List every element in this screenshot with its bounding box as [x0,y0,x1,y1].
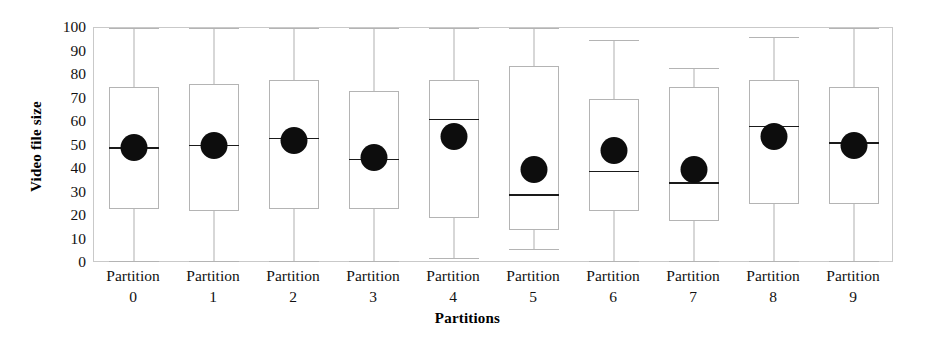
lower-whisker-line [214,211,215,260]
interquartile-box [669,87,719,221]
mean-marker-dot [201,132,228,159]
lower-whisker-cap [749,261,799,262]
lower-whisker-cap [429,258,479,259]
upper-whisker-cap [189,28,239,29]
lower-whisker-line [374,209,375,261]
median-line [509,194,559,196]
lower-whisker-line [774,204,775,260]
upper-whisker-line [134,28,135,87]
y-axis-tick-label: 90 [44,43,86,59]
x-axis-tick-label-line2: 6 [573,287,653,308]
x-axis-tick-label: Partition3 [333,266,413,308]
mean-marker-dot [841,132,868,159]
interquartile-box [509,66,559,231]
upper-whisker-cap [269,28,319,29]
mean-marker-dot [121,134,148,161]
mean-marker-dot [601,137,628,164]
x-axis-tick-label: Partition1 [173,266,253,308]
y-axis-tick-label: 30 [44,184,86,200]
upper-whisker-cap [589,40,639,41]
mean-marker-dot [761,123,788,150]
x-axis-tick-label-line1: Partition [493,266,573,287]
box-plot-group [494,28,574,261]
upper-whisker-line [694,68,695,87]
y-axis-tick-label: 100 [44,19,86,35]
y-axis-tick-label: 40 [44,160,86,176]
lower-whisker-line [614,211,615,260]
upper-whisker-line [454,28,455,80]
plot-inner [94,28,892,261]
lower-whisker-cap [189,261,239,262]
box-plot-group [654,28,734,261]
mean-marker-dot [681,156,708,183]
upper-whisker-line [854,28,855,87]
lower-whisker-cap [349,261,399,262]
x-axis-tick-label: Partition7 [653,266,733,308]
upper-whisker-line [774,37,775,79]
median-line [669,182,719,184]
median-line [429,119,479,121]
lower-whisker-line [294,209,295,261]
y-axis-tick-label: 60 [44,113,86,129]
x-axis-tick-label-line1: Partition [93,266,173,287]
mean-marker-dot [521,156,548,183]
x-axis-tick-label-line1: Partition [413,266,493,287]
y-axis-tick-label: 20 [44,207,86,223]
lower-whisker-cap [829,261,879,262]
y-axis-tick-label: 70 [44,90,86,106]
x-axis-tick-label: Partition5 [493,266,573,308]
lower-whisker-line [534,230,535,249]
upper-whisker-cap [429,28,479,29]
mean-marker-dot [281,127,308,154]
x-axis-tick-label-line2: 2 [253,287,333,308]
lower-whisker-cap [269,261,319,262]
x-axis-tick-label-line2: 7 [653,287,733,308]
lower-whisker-line [134,209,135,261]
lower-whisker-cap [669,261,719,262]
y-axis-tick-label: 10 [44,231,86,247]
x-axis-tick-label-line2: 3 [333,287,413,308]
x-axis-tick-label-line2: 4 [413,287,493,308]
x-axis-tick-label-line2: 9 [813,287,893,308]
x-axis-tick-label: Partition6 [573,266,653,308]
lower-whisker-line [454,218,455,258]
x-axis-tick-label-line1: Partition [253,266,333,287]
upper-whisker-line [294,28,295,80]
lower-whisker-line [854,204,855,260]
box-plot-group [174,28,254,261]
x-axis-tick-label-line1: Partition [573,266,653,287]
upper-whisker-line [534,28,535,66]
mean-marker-dot [361,144,388,171]
upper-whisker-cap [669,68,719,69]
lower-whisker-cap [589,261,639,262]
x-axis-tick-label: Partition8 [733,266,813,308]
mean-marker-dot [441,123,468,150]
box-plot-group [814,28,894,261]
x-axis-tick-label-line1: Partition [333,266,413,287]
upper-whisker-cap [749,37,799,38]
upper-whisker-cap [829,28,879,29]
x-axis-tick-label-line2: 8 [733,287,813,308]
x-axis-tick-label-line1: Partition [653,266,733,287]
x-axis-tick-label-line1: Partition [813,266,893,287]
lower-whisker-line [694,221,695,261]
lower-whisker-cap [509,249,559,250]
lower-whisker-cap [109,261,159,262]
x-axis-tick-label-line1: Partition [733,266,813,287]
box-plot-group [254,28,334,261]
x-axis-tick-label: Partition9 [813,266,893,308]
x-axis-tick-label-line1: Partition [173,266,253,287]
upper-whisker-line [214,28,215,84]
y-axis-tick-label: 80 [44,66,86,82]
y-axis-tick-labels: 0102030405060708090100 [44,0,86,341]
box-plot-group [574,28,654,261]
y-axis-tick-label: 50 [44,137,86,153]
box-plot-group [94,28,174,261]
y-axis-title: Video file size [28,47,45,247]
x-axis-tick-label-line2: 0 [93,287,173,308]
upper-whisker-cap [109,28,159,29]
x-axis-tick-label-line2: 1 [173,287,253,308]
x-axis-tick-label: Partition0 [93,266,173,308]
x-axis-tick-labels: Partition0Partition1Partition2Partition3… [93,266,893,312]
y-axis-tick-label: 0 [44,254,86,270]
